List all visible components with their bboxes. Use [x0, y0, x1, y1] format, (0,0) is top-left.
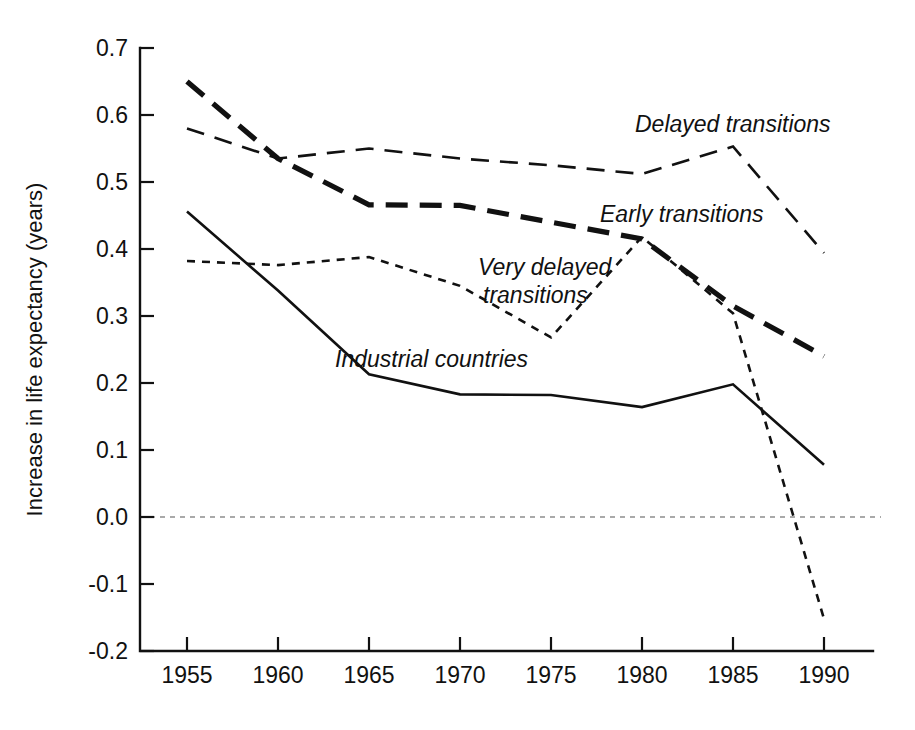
y-axis-ticks: 0.70.60.50.40.30.20.10.0-0.1-0.2	[88, 35, 154, 664]
y-tick-label: -0.1	[88, 571, 128, 597]
x-tick-label: 1980	[616, 662, 667, 688]
delayed-transitions-label: Delayed transitions	[635, 111, 831, 137]
y-tick-label: 0.5	[96, 169, 128, 195]
y-axis-title: Increase in life expectancy (years)	[22, 183, 47, 517]
x-tick-label: 1990	[798, 662, 849, 688]
industrial-countries-label: Industrial countries	[335, 346, 529, 372]
y-tick-label: 0.4	[96, 236, 128, 262]
early-transitions-label: Early transitions	[600, 201, 764, 227]
very-delayed-transitions-label-line2: transitions	[483, 282, 588, 308]
y-axis-title-text: Increase in life expectancy (years)	[22, 183, 47, 517]
x-tick-label: 1985	[707, 662, 758, 688]
chart-figure: 0.70.60.50.40.30.20.10.0-0.1-0.2 1955196…	[0, 0, 915, 730]
series-annotations: Delayed transitionsEarly transitionsVery…	[335, 111, 831, 372]
y-tick-label: 0.2	[96, 370, 128, 396]
x-tick-label: 1970	[434, 662, 485, 688]
y-tick-label: 0.1	[96, 437, 128, 463]
y-tick-label: 0.7	[96, 35, 128, 61]
x-axis-ticks: 19551960196519701975198019851990	[161, 637, 849, 688]
x-tick-label: 1965	[343, 662, 394, 688]
y-tick-label: 0.3	[96, 303, 128, 329]
series-line-delayed-transitions	[187, 128, 824, 253]
x-tick-label: 1975	[525, 662, 576, 688]
x-tick-label: 1960	[252, 662, 303, 688]
y-tick-label: 0.0	[96, 504, 128, 530]
very-delayed-transitions-label-line1: Very delayed	[478, 254, 613, 280]
x-tick-label: 1955	[161, 662, 212, 688]
y-tick-label: -0.2	[88, 638, 128, 664]
y-tick-label: 0.6	[96, 102, 128, 128]
series-line-industrial-countries	[187, 211, 824, 464]
line-chart: 0.70.60.50.40.30.20.10.0-0.1-0.2 1955196…	[0, 0, 915, 730]
